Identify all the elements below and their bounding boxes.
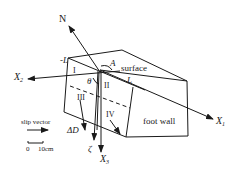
x1-axis-label: X1	[215, 115, 225, 127]
theta-label: θ	[87, 76, 92, 86]
iv-arrow	[110, 120, 120, 134]
block-bottom-edge	[126, 136, 188, 137]
surface-label: surface	[121, 63, 147, 73]
l-label: L	[126, 75, 132, 85]
scale-bar	[28, 141, 43, 143]
foot-wall-label: foot wall	[143, 116, 176, 126]
scale-end-label: 10cm	[38, 145, 54, 153]
zeta-label: ζ	[88, 144, 93, 154]
block-left-edge	[64, 58, 68, 112]
x3-axis-label: X3	[99, 153, 109, 165]
region-ii-label: II	[104, 81, 110, 90]
delta-d-label: ΔD	[66, 125, 79, 135]
slip-vector-label: slip vector	[21, 118, 51, 126]
n-axis-label: N	[59, 13, 66, 24]
x2-axis-label: X2	[13, 71, 23, 83]
neg-l-label: -L	[60, 55, 68, 65]
footwall-left-edge	[126, 87, 133, 137]
a-label: A	[109, 58, 116, 68]
delta-d-arrow	[80, 100, 85, 130]
theta-arc	[93, 78, 99, 84]
region-iii-label: III	[77, 93, 85, 102]
region-i-label: I	[73, 66, 76, 75]
region-iv-label: IV	[106, 110, 115, 119]
fault-diagram: N -L X2 A surface L θ I II III IV foot w…	[0, 0, 234, 177]
scale-start-label: 0	[26, 145, 30, 153]
